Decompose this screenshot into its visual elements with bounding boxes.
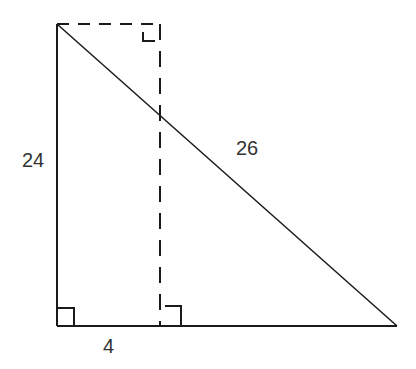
base-segment-label: 4 [103,335,114,357]
hypotenuse-line [57,24,397,326]
hypotenuse-label: 26 [236,137,258,159]
right-angle-marker-bottom-left [57,308,74,326]
right-angle-marker-dashed-base [165,306,181,326]
triangle-diagram: 24 26 4 [0,0,416,369]
left-side-label: 24 [22,149,44,171]
right-angle-marker-top-right [143,32,155,41]
